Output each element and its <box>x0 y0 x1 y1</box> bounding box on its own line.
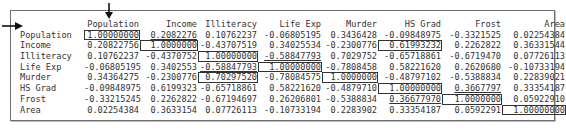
column-header: Murder <box>322 19 378 30</box>
matrix-cell: -0.4370752 <box>140 51 198 62</box>
matrix-cell: 0.58221620 <box>378 62 442 73</box>
matrix-cell: 0.33354187 <box>502 83 566 94</box>
matrix-cell: 0.2082276 <box>140 30 198 41</box>
row-label: Area <box>20 105 84 116</box>
matrix-cell: 1.0000000 <box>140 40 198 51</box>
matrix-cell: 0.7029752 <box>322 51 378 62</box>
matrix-cell: -0.3321525 <box>442 30 502 41</box>
matrix-cell: 0.61993232 <box>378 40 442 51</box>
matrix-cell: 0.2262822 <box>442 40 502 51</box>
matrix-cell: 0.10762237 <box>198 30 258 41</box>
column-header: Area <box>502 19 566 30</box>
matrix-cell: 0.2620680 <box>442 62 502 73</box>
matrix-cell: -0.78084575 <box>258 72 322 83</box>
matrix-cell: -0.65718861 <box>378 51 442 62</box>
matrix-cell: -0.43707519 <box>198 40 258 51</box>
row-label: Frost <box>20 94 84 105</box>
matrix-cell: 0.05922910 <box>502 94 566 105</box>
column-header: Life Exp <box>258 19 322 30</box>
matrix-cell: -0.06805195 <box>258 30 322 41</box>
header-corner <box>20 19 84 30</box>
matrix-cell: -0.10733194 <box>502 62 566 73</box>
matrix-cell: -0.2300776 <box>322 40 378 51</box>
matrix-cell: 0.20822756 <box>84 40 140 51</box>
matrix-cell: 1.00000000 <box>258 62 322 73</box>
row-label: Life Exp <box>20 62 84 73</box>
matrix-cell: 0.0592291 <box>442 105 502 116</box>
matrix-cell: 0.26206801 <box>258 94 322 105</box>
matrix-cell: 0.3667797 <box>442 83 502 94</box>
matrix-cell: -0.06805195 <box>84 62 140 73</box>
matrix-cell: 1.00000000 <box>198 51 258 62</box>
matrix-cell: 0.07726113 <box>198 105 258 116</box>
matrix-cell: 0.34364275 <box>84 72 140 83</box>
matrix-cell: 0.3402553 <box>140 62 198 73</box>
matrix-cell: 0.07726113 <box>502 51 566 62</box>
matrix-cell: 1.0000000 <box>442 94 502 105</box>
matrix-cell: -0.09848975 <box>84 83 140 94</box>
matrix-cell: -0.58847793 <box>258 51 322 62</box>
row-label: HS Grad <box>20 83 84 94</box>
matrix-cell: 0.34025534 <box>258 40 322 51</box>
matrix-cell: -0.7808458 <box>322 62 378 73</box>
matrix-cell: 0.02254384 <box>84 105 140 116</box>
matrix-cell: 0.33354187 <box>378 105 442 116</box>
column-header: Frost <box>442 19 502 30</box>
matrix-cell: 0.2262822 <box>140 94 198 105</box>
matrix-cell: 0.3633154 <box>140 105 198 116</box>
matrix-cell: 0.36677970 <box>378 94 442 105</box>
matrix-cell: 0.3436428 <box>322 30 378 41</box>
matrix-cell: -0.48797102 <box>378 72 442 83</box>
column-header: HS Grad <box>378 19 442 30</box>
matrix-cell: -0.5388834 <box>322 94 378 105</box>
matrix-cell: 0.02254384 <box>502 30 566 41</box>
matrix-cell: -0.09848975 <box>378 30 442 41</box>
matrix-cell: 1.0000000 <box>322 72 378 83</box>
row-label: Income <box>20 40 84 51</box>
matrix-cell: 0.22839021 <box>502 72 566 83</box>
column-header: Population <box>84 19 140 30</box>
matrix-cell: 0.36331544 <box>502 40 566 51</box>
matrix-cell: 0.10762237 <box>84 51 140 62</box>
matrix-cell: 0.2283902 <box>322 105 378 116</box>
arrow-down-icon <box>104 3 114 19</box>
correlation-matrix: PopulationIncomeIlliteracyLife ExpMurder… <box>20 19 566 115</box>
row-label: Population <box>20 30 84 41</box>
matrix-cell: 1.00000000 <box>502 105 566 116</box>
matrix-cell: -0.2300776 <box>140 72 198 83</box>
matrix-cell: -0.4879710 <box>322 83 378 94</box>
matrix-cell: 1.00000000 <box>378 83 442 94</box>
matrix-cell: -0.65718861 <box>198 83 258 94</box>
matrix-cell: 1.00000000 <box>84 30 140 41</box>
matrix-cell: -0.58847793 <box>198 62 258 73</box>
matrix-cell: -0.67194697 <box>198 94 258 105</box>
matrix-cell: 0.70297520 <box>198 72 258 83</box>
column-header: Income <box>140 19 198 30</box>
row-label: Murder <box>20 72 84 83</box>
matrix-cell: -0.10733194 <box>258 105 322 116</box>
row-label: Illiteracy <box>20 51 84 62</box>
matrix-cell: 0.6199323 <box>140 83 198 94</box>
matrix-cell: -0.5388834 <box>442 72 502 83</box>
matrix-cell: -0.33215245 <box>84 94 140 105</box>
column-header: Illiteracy <box>198 19 258 30</box>
matrix-cell: 0.58221620 <box>258 83 322 94</box>
matrix-cell: -0.6719470 <box>442 51 502 62</box>
